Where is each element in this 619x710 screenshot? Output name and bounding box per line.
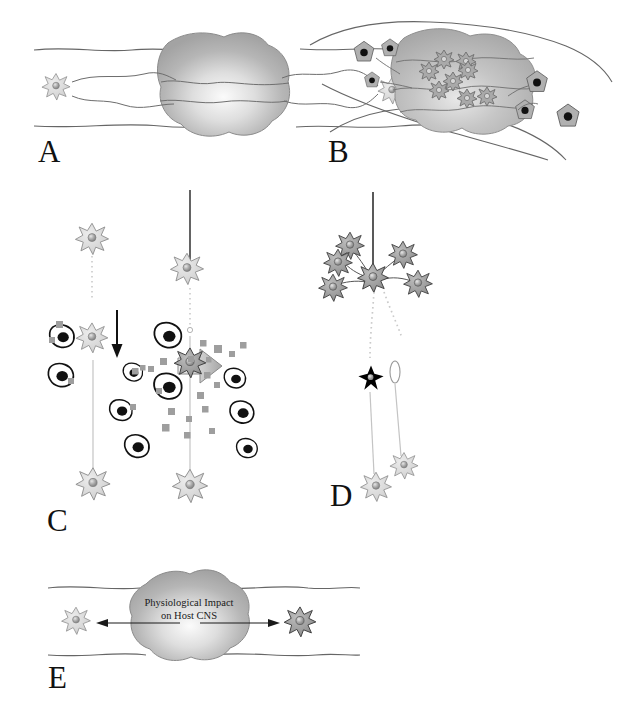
panel-c-right-activated (132, 190, 257, 503)
distal-astrocyte-upper-d (390, 453, 418, 480)
tumour-mass-b (391, 29, 536, 134)
figure-canvas: Physiological Impact on Host CNS (0, 0, 619, 710)
astrocyte-right-e (284, 607, 316, 637)
astrocyte-left-e (62, 607, 91, 634)
vessel-process-right-a (282, 70, 378, 108)
panel-label-b: B (328, 136, 349, 167)
panel-e-caption-line-2: on Host CNS (161, 610, 217, 621)
reactive-astrocyte-d-4 (389, 241, 418, 268)
panel-label-a: A (38, 136, 60, 167)
panel-c-left-resting (48, 223, 149, 500)
panel-e-caption-line-1: Physiological Impact (145, 597, 234, 608)
distal-astrocyte-lower-d (361, 472, 392, 501)
figure-root: Physiological Impact on Host CNS A B C D… (0, 0, 619, 710)
panel-label-e: E (48, 662, 67, 693)
down-arrow-c (112, 310, 123, 358)
astrocyte-center-c-left (76, 323, 108, 353)
panel-b (310, 22, 612, 160)
dotted-process-right-d (384, 292, 402, 338)
panel-d (319, 192, 433, 501)
astrocyte-left-a (42, 74, 70, 101)
dotted-process-left-d (370, 292, 374, 358)
astrocyte-top-c-left (75, 223, 108, 254)
astrocyte-bottom-c-left (76, 468, 110, 500)
panel-e: Physiological Impact on Host CNS (48, 570, 360, 661)
astrocyte-top-c-right (170, 253, 203, 284)
reactive-astrocyte-d-3 (319, 274, 348, 301)
panel-label-d: D (330, 480, 352, 511)
reactive-astrocyte-d-2 (324, 249, 353, 276)
astrocyte-bottom-c-right (172, 469, 207, 502)
degenerating-cell-d (358, 365, 383, 389)
synaptic-bouton-c-right (187, 327, 192, 332)
reactive-astrocyte-center-d (358, 263, 389, 292)
vacuole-d (390, 361, 400, 383)
panel-c (48, 190, 257, 503)
reactive-astrocyte-d-5 (404, 270, 433, 297)
reactive-astrocyte-cluster-d (319, 232, 433, 301)
panel-label-c: C (47, 505, 68, 536)
tumour-mass-a (157, 33, 289, 136)
